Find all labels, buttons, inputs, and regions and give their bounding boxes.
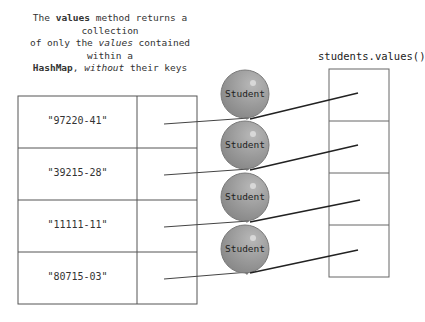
map-key: "39215-28": [18, 167, 137, 178]
values-collection: [329, 69, 389, 277]
map-key: "97220-41": [18, 115, 137, 126]
student-balloon: Student: [220, 191, 270, 202]
student-balloon: Student: [220, 139, 270, 150]
student-balloon: Student: [220, 88, 270, 99]
map-key: "11111-11": [18, 219, 137, 230]
map-key: "80715-03": [18, 271, 137, 282]
student-balloon: Student: [220, 243, 270, 254]
